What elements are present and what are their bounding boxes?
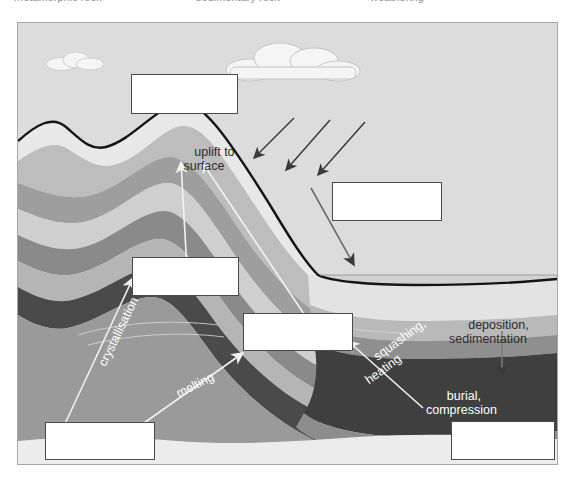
header-fragment-3: weathering [370,0,424,3]
answer-box-bottom-left[interactable] [45,422,155,460]
answer-box-top[interactable] [131,74,238,114]
rock-cycle-worksheet-page: metamorphic rock sedimentary rock weathe… [0,0,572,492]
answer-box-bottom-right[interactable] [451,421,555,460]
header-fragment-2: sedimentary rock [196,0,280,3]
answer-box-center[interactable] [243,313,353,351]
diagram-frame: uplift to surface deposition, sedimentat… [17,22,558,465]
cropped-header-text: metamorphic rock sedimentary rock weathe… [0,0,572,12]
answer-box-right-upper[interactable] [332,182,442,221]
label-uplift-to-surface: uplift to surface [158,131,250,187]
label-deposition-sedimentation: deposition, sedimentation [426,304,550,360]
header-fragment-1: metamorphic rock [14,0,101,3]
answer-box-left-middle[interactable] [132,257,239,296]
